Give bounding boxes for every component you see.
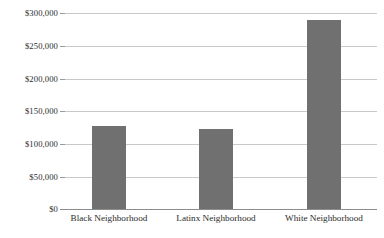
x-axis-label-black-neighborhood: Black Neighborhood bbox=[53, 213, 165, 224]
gridline-300000 bbox=[62, 13, 377, 14]
tick-mark-100000 bbox=[60, 144, 65, 145]
bar-black-neighborhood[interactable] bbox=[92, 126, 126, 209]
bar-latinx-neighborhood[interactable] bbox=[199, 129, 233, 209]
tick-mark-300000 bbox=[60, 13, 65, 14]
y-axis-label-50000: $50,000 bbox=[29, 173, 58, 182]
x-axis-label-latinx-neighborhood: Latinx Neighborhood bbox=[160, 213, 272, 224]
y-axis-label-150000: $150,000 bbox=[25, 107, 58, 116]
tick-mark-200000 bbox=[60, 79, 65, 80]
x-axis-label-white-neighborhood: White Neighborhood bbox=[268, 213, 380, 224]
bar-chart: $300,000 $250,000 $200,000 $150,000 $100… bbox=[0, 0, 384, 238]
tick-mark-150000 bbox=[60, 111, 65, 112]
y-axis-label-300000: $300,000 bbox=[25, 9, 58, 18]
tick-mark-50000 bbox=[60, 177, 65, 178]
y-axis-label-200000: $200,000 bbox=[25, 75, 58, 84]
axis-line-x bbox=[60, 209, 377, 210]
y-axis-label-100000: $100,000 bbox=[25, 140, 58, 149]
y-axis-label-250000: $250,000 bbox=[25, 42, 58, 51]
bar-white-neighborhood[interactable] bbox=[307, 20, 341, 209]
tick-mark-250000 bbox=[60, 46, 65, 47]
